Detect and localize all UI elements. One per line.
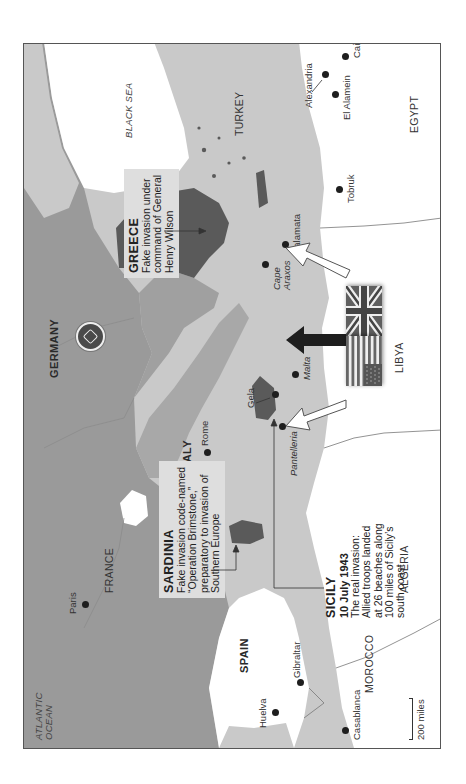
map-base [24,43,441,748]
flag-united-states-icon [346,336,382,386]
callout-sardinia: SARDINIA Fake invasion code-named “Opera… [159,461,225,598]
label-black-sea: BLACK SEA [124,82,134,138]
map-scale: 200 miles [409,698,426,740]
label-libya: LIBYA [394,343,405,374]
label-malta: Malta [302,357,312,380]
label-alexandria: Alexandria [304,63,314,108]
campaign-map: ATLANTIC OCEAN BLACK SEA GERMANY FRANCE … [23,43,441,749]
city-dot-gela [272,391,279,398]
label-turkey: TURKEY [234,92,245,136]
flag-united-kingdom-icon [346,286,382,336]
label-gibraltar: Gibraltar [292,642,302,678]
city-dot-gibraltar [297,679,304,686]
label-kalamata: Kalamata [292,214,302,254]
label-france: FRANCE [104,548,115,593]
scale-bar [409,698,413,740]
label-atlantic-ocean: ATLANTIC OCEAN [34,692,54,740]
city-dot-malta [292,371,299,378]
city-dot-cairo [342,53,349,60]
label-germany: GERMANY [49,319,61,378]
label-rome: Rome [200,421,210,446]
label-cairo: Cairo [352,43,362,58]
city-dot-rome [204,449,211,456]
label-spain: SPAIN [239,638,251,673]
label-paris: Paris [68,592,78,614]
city-dot-alexandria [322,71,329,78]
city-dot-el-alamein [332,91,339,98]
label-casablanca: Casablanca [352,690,362,740]
city-dot-casablanca [342,727,349,734]
city-dot-tobruk [336,186,343,193]
city-dot-pantelleria [279,423,286,430]
label-cape-araxos: Cape Araxos [272,260,292,290]
city-dot-paris [82,601,89,608]
label-tobruk: Tobruk [346,174,356,203]
sardinia-island [229,520,264,544]
axis-power-marker-icon [76,322,105,351]
label-huelva: Huelva [258,698,268,728]
label-pantelleria: Pantelleria [289,431,299,476]
scale-label: 200 miles [415,698,426,740]
city-dot-huelva [272,709,279,716]
label-el-alamein: El Alamein [342,75,352,120]
crete-island [256,170,268,208]
label-egypt: EGYPT [409,96,420,133]
city-dot-kalamata [282,241,289,248]
callout-sicily: SICILY 10 July 1943 The real invasion: A… [324,523,407,618]
callout-greece: GREECE Fake invasion under command of Ge… [124,169,179,278]
city-dot-cape-araxos [262,261,269,268]
label-morocco: MOROCCO [364,635,375,693]
label-gela: Gela [246,388,256,408]
